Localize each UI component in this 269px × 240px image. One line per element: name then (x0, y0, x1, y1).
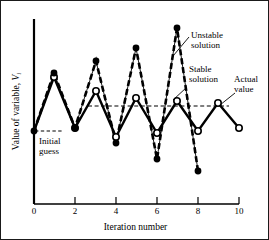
x-tick-label-4: 4 (108, 206, 124, 216)
unstable-solution-label: Unstable solution (191, 30, 223, 50)
unstable-solution-label-line2: solution (191, 40, 223, 50)
x-tick-label-10: 10 (231, 206, 247, 216)
unstable-solution-label-line1: Unstable (191, 30, 223, 40)
initial-guess-label-line2: guess (39, 146, 61, 156)
x-tick-label-2: 2 (67, 206, 83, 216)
y-axis-title-subscript: i (15, 73, 23, 75)
y-axis-title-symbol: V (11, 75, 21, 81)
x-tick-label-0: 0 (26, 206, 42, 216)
stable-solution-label: Stable solution (189, 64, 218, 84)
initial-guess-label: Initial guess (39, 136, 61, 156)
y-axis-title: Value of variable, Vi (11, 46, 24, 176)
actual-label-leader-line (220, 93, 235, 105)
x-tick-label-6: 6 (149, 206, 165, 216)
initial-guess-label-line1: Initial (39, 136, 61, 146)
figure-container: 0 2 4 6 8 10 Iteration number Value of v… (0, 0, 269, 240)
actual-value-label-line2: value (234, 84, 258, 94)
actual-value-label-line1: Actual (234, 74, 258, 84)
x-axis-title: Iteration number (1, 222, 269, 232)
stable-solution-label-line2: solution (189, 74, 218, 84)
stable-solution-label-line1: Stable (189, 64, 218, 74)
y-axis-title-text: Value of variable, (11, 83, 21, 150)
stable-solution-path (34, 77, 239, 137)
x-axis-ticks (34, 197, 239, 204)
chart-plot (1, 1, 269, 240)
stable-label-leader-line (173, 87, 187, 100)
actual-value-label: Actual value (234, 74, 258, 94)
x-tick-label-8: 8 (190, 206, 206, 216)
